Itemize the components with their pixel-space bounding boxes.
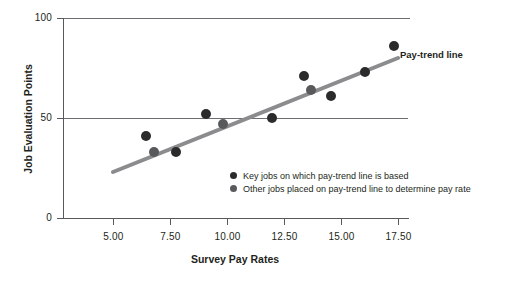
x-tick-marks — [114, 219, 399, 226]
data-point — [218, 119, 228, 129]
legend-marker-icon — [230, 185, 237, 192]
data-points-key-jobs — [141, 41, 399, 157]
data-point — [171, 147, 181, 157]
legend-marker-icon — [230, 172, 237, 179]
chart-legend: Key jobs on which pay-trend line is base… — [230, 169, 471, 195]
y-tick-marks — [57, 19, 64, 219]
legend-item-label: Key jobs on which pay-trend line is base… — [243, 171, 409, 181]
y-axis-title: Job Evaluation Points — [22, 34, 34, 204]
y-axis-tick-label: 0 — [22, 212, 52, 223]
data-point — [149, 147, 159, 157]
data-point — [389, 41, 399, 51]
legend-item-other-jobs: Other jobs placed on pay-trend line to d… — [230, 182, 471, 195]
x-axis-tick-label: 7.50 — [150, 231, 191, 242]
y-axis-tick-label: 100 — [22, 12, 52, 23]
data-point — [306, 85, 316, 95]
pay-trend-line-label: Pay-trend line — [400, 49, 463, 60]
scatter-chart: 100 50 0 5.00 7.50 10.00 12.50 15.00 17.… — [0, 0, 531, 281]
x-axis-tick-label: 17.50 — [376, 231, 421, 242]
data-point — [299, 71, 309, 81]
x-axis-tick-label: 12.50 — [262, 231, 307, 242]
data-point — [141, 131, 151, 141]
x-axis-title: Survey Pay Rates — [0, 253, 470, 265]
data-point — [267, 113, 277, 123]
data-point — [201, 109, 211, 119]
legend-item-label: Other jobs placed on pay-trend line to d… — [243, 184, 471, 194]
x-axis-tick-label: 10.00 — [205, 231, 250, 242]
data-point — [326, 91, 336, 101]
data-point — [360, 67, 370, 77]
x-axis-tick-label: 15.00 — [319, 231, 364, 242]
legend-item-key-jobs: Key jobs on which pay-trend line is base… — [230, 169, 471, 182]
x-axis-tick-label: 5.00 — [93, 231, 134, 242]
